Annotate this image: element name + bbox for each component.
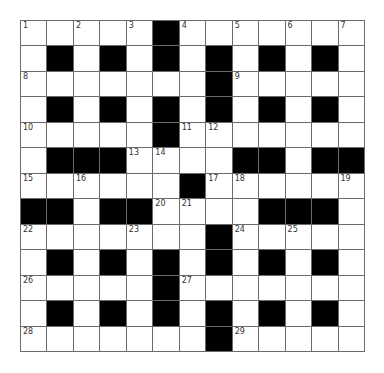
grid-cell[interactable] (286, 301, 312, 326)
grid-cell[interactable] (286, 174, 312, 199)
grid-cell[interactable] (286, 123, 312, 148)
grid-cell[interactable] (74, 46, 100, 71)
grid-cell[interactable] (312, 225, 338, 250)
grid-cell[interactable]: 14 (153, 148, 179, 173)
grid-cell[interactable] (180, 46, 206, 71)
grid-cell[interactable] (339, 225, 365, 250)
grid-cell[interactable] (180, 327, 206, 352)
grid-cell[interactable] (180, 148, 206, 173)
grid-cell[interactable]: 18 (233, 174, 259, 199)
grid-cell[interactable] (100, 225, 126, 250)
grid-cell[interactable] (206, 21, 232, 46)
grid-cell[interactable] (339, 123, 365, 148)
grid-cell[interactable] (21, 250, 47, 275)
grid-cell[interactable] (153, 72, 179, 97)
grid-cell[interactable] (339, 250, 365, 275)
grid-cell[interactable] (286, 327, 312, 352)
grid-cell[interactable] (74, 123, 100, 148)
grid-cell[interactable]: 13 (127, 148, 153, 173)
grid-cell[interactable] (286, 46, 312, 71)
grid-cell[interactable] (259, 276, 285, 301)
grid-cell[interactable] (21, 301, 47, 326)
grid-cell[interactable] (339, 301, 365, 326)
grid-cell[interactable] (127, 301, 153, 326)
grid-cell[interactable] (74, 225, 100, 250)
grid-cell[interactable] (21, 148, 47, 173)
grid-cell[interactable] (127, 174, 153, 199)
grid-cell[interactable] (180, 97, 206, 122)
grid-cell[interactable] (74, 250, 100, 275)
grid-cell[interactable] (339, 276, 365, 301)
grid-cell[interactable] (312, 327, 338, 352)
grid-cell[interactable] (339, 72, 365, 97)
grid-cell[interactable] (233, 46, 259, 71)
grid-cell[interactable] (127, 250, 153, 275)
grid-cell[interactable]: 23 (127, 225, 153, 250)
grid-cell[interactable] (286, 276, 312, 301)
grid-cell[interactable] (100, 123, 126, 148)
grid-cell[interactable] (259, 174, 285, 199)
grid-cell[interactable] (233, 199, 259, 224)
grid-cell[interactable]: 21 (180, 199, 206, 224)
grid-cell[interactable] (74, 97, 100, 122)
grid-cell[interactable]: 6 (286, 21, 312, 46)
grid-cell[interactable] (233, 276, 259, 301)
grid-cell[interactable] (153, 174, 179, 199)
grid-cell[interactable] (206, 276, 232, 301)
grid-cell[interactable] (47, 123, 73, 148)
grid-cell[interactable]: 1 (21, 21, 47, 46)
grid-cell[interactable] (100, 72, 126, 97)
grid-cell[interactable] (21, 46, 47, 71)
grid-cell[interactable] (127, 46, 153, 71)
grid-cell[interactable] (74, 199, 100, 224)
grid-cell[interactable] (312, 123, 338, 148)
grid-cell[interactable]: 12 (206, 123, 232, 148)
grid-cell[interactable] (74, 72, 100, 97)
grid-cell[interactable] (312, 174, 338, 199)
grid-cell[interactable] (47, 174, 73, 199)
grid-cell[interactable] (100, 327, 126, 352)
grid-cell[interactable] (127, 327, 153, 352)
grid-cell[interactable] (339, 46, 365, 71)
grid-cell[interactable]: 4 (180, 21, 206, 46)
grid-cell[interactable] (100, 21, 126, 46)
grid-cell[interactable] (180, 250, 206, 275)
grid-cell[interactable] (180, 225, 206, 250)
grid-cell[interactable] (339, 97, 365, 122)
grid-cell[interactable] (339, 199, 365, 224)
grid-cell[interactable] (47, 276, 73, 301)
grid-cell[interactable] (286, 250, 312, 275)
grid-cell[interactable] (233, 301, 259, 326)
grid-cell[interactable] (286, 97, 312, 122)
grid-cell[interactable] (259, 327, 285, 352)
grid-cell[interactable]: 28 (21, 327, 47, 352)
grid-cell[interactable] (74, 301, 100, 326)
grid-cell[interactable] (259, 72, 285, 97)
grid-cell[interactable] (286, 148, 312, 173)
grid-cell[interactable] (259, 21, 285, 46)
grid-cell[interactable] (100, 174, 126, 199)
grid-cell[interactable] (259, 225, 285, 250)
grid-cell[interactable]: 25 (286, 225, 312, 250)
grid-cell[interactable] (47, 21, 73, 46)
grid-cell[interactable] (233, 123, 259, 148)
grid-cell[interactable] (286, 72, 312, 97)
grid-cell[interactable]: 29 (233, 327, 259, 352)
grid-cell[interactable]: 10 (21, 123, 47, 148)
grid-cell[interactable] (127, 72, 153, 97)
grid-cell[interactable]: 3 (127, 21, 153, 46)
grid-cell[interactable]: 9 (233, 72, 259, 97)
grid-cell[interactable]: 16 (74, 174, 100, 199)
grid-cell[interactable] (21, 97, 47, 122)
grid-cell[interactable] (180, 72, 206, 97)
grid-cell[interactable] (47, 327, 73, 352)
grid-cell[interactable]: 26 (21, 276, 47, 301)
grid-cell[interactable] (47, 72, 73, 97)
grid-cell[interactable]: 15 (21, 174, 47, 199)
grid-cell[interactable] (339, 327, 365, 352)
grid-cell[interactable]: 19 (339, 174, 365, 199)
grid-cell[interactable] (206, 148, 232, 173)
grid-cell[interactable]: 8 (21, 72, 47, 97)
grid-cell[interactable]: 27 (180, 276, 206, 301)
grid-cell[interactable] (153, 327, 179, 352)
